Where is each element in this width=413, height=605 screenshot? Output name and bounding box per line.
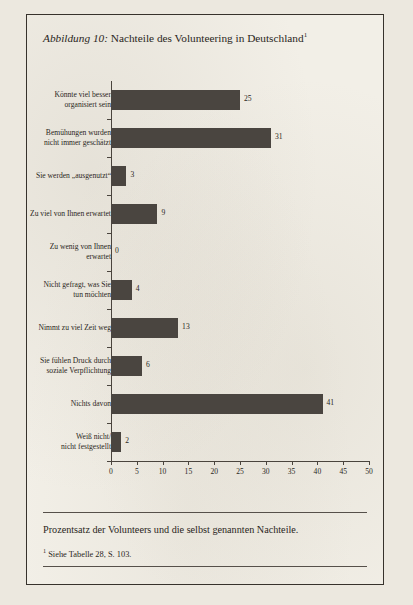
- bar-track: 31: [111, 119, 383, 157]
- figure-footnote: 1 Siehe Tabelle 28, S. 103.: [43, 545, 369, 560]
- bar: [111, 166, 126, 186]
- category-label-line: Sie fühlen Druck durch: [40, 356, 111, 366]
- y-axis-tick: [107, 309, 112, 310]
- category-label-line: Nicht gefragt, was Sie: [44, 280, 111, 290]
- bar: [111, 356, 142, 376]
- bar-value-label: 9: [161, 208, 165, 218]
- x-axis-tick-label: 5: [127, 467, 147, 477]
- category-label-line: Zu viel von Ihnen erwartet: [30, 209, 111, 219]
- category-label-line: Nichts davon: [71, 399, 111, 409]
- x-axis-tick-label: 20: [204, 467, 224, 477]
- bar-row: Zu wenig von Ihnenerwartet0: [27, 233, 383, 271]
- bar-value-label: 3: [130, 170, 134, 180]
- bar: [111, 128, 271, 148]
- bar-value-label: 0: [115, 246, 119, 256]
- x-axis-tick: [163, 461, 164, 465]
- y-axis-tick: [107, 195, 112, 196]
- footnote-divider: [43, 566, 367, 567]
- x-axis-tick-label: 50: [359, 467, 379, 477]
- x-axis-tick: [214, 461, 215, 465]
- category-label-line: tun möchten: [73, 290, 111, 300]
- category-label-line: erwartet: [86, 252, 111, 262]
- x-axis-tick-label: 10: [153, 467, 173, 477]
- category-label-line: Zu wenig von Ihnen: [50, 242, 111, 252]
- category-label: Zu wenig von Ihnenerwartet: [27, 233, 111, 271]
- x-axis-tick-label: 0: [101, 467, 121, 477]
- bar-row: Zu viel von Ihnen erwartet9: [27, 195, 383, 233]
- bar-value-label: 25: [244, 94, 252, 104]
- x-axis-tick-label: 45: [333, 467, 353, 477]
- category-label-line: organisiert sein: [65, 100, 111, 110]
- category-label-line: Nimmt zu viel Zeit weg: [38, 323, 111, 333]
- bar-row: Bemühungen wurdennicht immer geschätzt31: [27, 119, 383, 157]
- bar-row: Weiß nicht/nicht festgestellt2: [27, 423, 383, 461]
- category-label: Weiß nicht/nicht festgestellt: [27, 423, 111, 461]
- bar-value-label: 2: [125, 436, 129, 446]
- category-label-line: nicht immer geschätzt: [44, 138, 111, 148]
- footnote-marker: 1: [43, 547, 46, 554]
- category-label: Bemühungen wurdennicht immer geschätzt: [27, 119, 111, 157]
- bar-track: 9: [111, 195, 383, 233]
- bar-track: 25: [111, 81, 383, 119]
- bar-track: 4: [111, 271, 383, 309]
- y-axis-tick: [107, 347, 112, 348]
- bar: [111, 280, 132, 300]
- footnote-text: Siehe Tabelle 28, S. 103.: [48, 550, 131, 559]
- bar: [111, 90, 240, 110]
- bar-row: Nimmt zu viel Zeit weg13: [27, 309, 383, 347]
- x-axis-tick: [111, 461, 112, 465]
- figure-title: Abbildung 10: Nachteile des Volunteering…: [43, 28, 371, 45]
- bar-row: Sie werden „ausgenutzt“3: [27, 157, 383, 195]
- bar-track: 0: [111, 233, 383, 271]
- figure-label: Abbildung 10:: [43, 32, 108, 44]
- category-label: Nimmt zu viel Zeit weg: [27, 309, 111, 347]
- bar-track: 3: [111, 157, 383, 195]
- category-label-line: Sie werden „ausgenutzt“: [36, 171, 111, 181]
- bar-track: 6: [111, 347, 383, 385]
- bar: [111, 394, 323, 414]
- category-label: Nicht gefragt, was Sietun möchten: [27, 271, 111, 309]
- x-axis-tick: [343, 461, 344, 465]
- bar-track: 13: [111, 309, 383, 347]
- bar-value-label: 41: [327, 398, 335, 408]
- y-axis-tick: [107, 119, 112, 120]
- x-axis-tick-label: 40: [307, 467, 327, 477]
- category-label: Könnte viel besserorganisiert sein: [27, 81, 111, 119]
- x-axis-tick: [266, 461, 267, 465]
- y-axis-tick: [107, 157, 112, 158]
- y-axis-tick: [107, 423, 112, 424]
- bar-value-label: 6: [146, 360, 150, 370]
- y-axis-tick: [107, 233, 112, 234]
- bar: [111, 204, 157, 224]
- bar-row: Sie fühlen Druck durchsoziale Verpflicht…: [27, 347, 383, 385]
- bar-value-label: 13: [182, 322, 190, 332]
- x-axis-tick: [292, 461, 293, 465]
- x-axis-tick: [240, 461, 241, 465]
- bar: [111, 318, 178, 338]
- figure-page: Abbildung 10: Nachteile des Volunteering…: [26, 14, 384, 585]
- category-label: Nichts davon: [27, 385, 111, 423]
- x-axis-tick-label: 35: [282, 467, 302, 477]
- bar-track: 2: [111, 423, 383, 461]
- category-label-line: Könnte viel besser: [54, 90, 111, 100]
- bar-row: Nichts davon41: [27, 385, 383, 423]
- x-axis-tick-label: 25: [230, 467, 250, 477]
- y-axis-tick: [107, 271, 112, 272]
- x-axis-tick-label: 15: [178, 467, 198, 477]
- category-label: Zu viel von Ihnen erwartet: [27, 195, 111, 233]
- category-label-line: Weiß nicht/: [76, 432, 111, 442]
- bar-value-label: 31: [275, 132, 283, 142]
- category-label-line: Bemühungen wurden: [46, 128, 111, 138]
- bar-chart: Könnte viel besserorganisiert sein25Bemü…: [27, 81, 383, 501]
- category-label-line: soziale Verpflichtung: [46, 366, 111, 376]
- title-footnote-marker: 1: [304, 31, 308, 39]
- y-axis-tick: [107, 385, 112, 386]
- caption-divider: [43, 512, 367, 513]
- category-label-line: nicht festgestellt: [61, 442, 111, 452]
- x-axis-tick-label: 30: [256, 467, 276, 477]
- x-axis-tick: [188, 461, 189, 465]
- bar-row: Nicht gefragt, was Sietun möchten4: [27, 271, 383, 309]
- category-label: Sie werden „ausgenutzt“: [27, 157, 111, 195]
- bar-row: Könnte viel besserorganisiert sein25: [27, 81, 383, 119]
- bar-track: 41: [111, 385, 383, 423]
